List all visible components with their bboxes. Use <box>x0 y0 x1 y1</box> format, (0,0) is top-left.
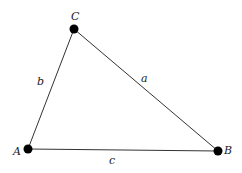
side-a-line <box>74 29 218 151</box>
vertex-b-point <box>214 147 223 156</box>
vertex-b-label: B <box>223 144 232 157</box>
triangle-diagram: A B C a b c <box>0 0 242 173</box>
side-c-line <box>28 149 218 151</box>
vertex-c-point <box>70 25 79 34</box>
side-b-line <box>28 29 74 149</box>
side-b-label: b <box>37 75 44 88</box>
side-c-label: c <box>109 154 115 167</box>
vertex-a-point <box>24 145 33 154</box>
vertex-c-label: C <box>71 10 80 23</box>
vertex-a-label: A <box>12 145 21 158</box>
side-a-label: a <box>141 72 148 85</box>
